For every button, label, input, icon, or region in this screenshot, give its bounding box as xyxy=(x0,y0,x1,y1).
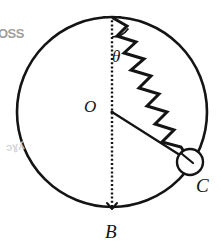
label-bottom-B: B xyxy=(105,222,117,241)
label-angle-theta: θ xyxy=(112,48,120,65)
bead-circle-C xyxy=(177,149,203,175)
label-center-O: O xyxy=(84,98,96,115)
label-bead-C: C xyxy=(196,176,209,195)
physics-diagram-svg xyxy=(0,0,221,249)
center-point-marker xyxy=(110,110,113,113)
figure-container: O B C θ OSS ɔɣʎ xyxy=(0,0,221,249)
radius-line-OC xyxy=(112,112,183,157)
